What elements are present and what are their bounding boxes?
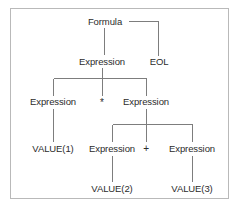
parse-tree-figure: Formula EOL Expression Expression * Expr…: [0, 0, 241, 211]
node-value-1: VALUE(1): [32, 143, 73, 154]
node-expression-add-left: Expression: [89, 143, 135, 154]
node-value-2: VALUE(2): [91, 183, 132, 194]
node-expression-add-right: Expression: [169, 143, 215, 154]
node-expression-right: Expression: [123, 96, 169, 107]
node-expression-root: Expression: [79, 56, 125, 67]
edge-formula-eol: [129, 22, 159, 56]
node-expression-left: Expression: [30, 96, 76, 107]
node-value-3: VALUE(3): [171, 183, 212, 194]
node-formula: Formula: [88, 16, 122, 27]
node-eol: EOL: [150, 56, 169, 67]
node-operator-multiply: *: [100, 97, 104, 108]
node-operator-plus: +: [143, 143, 149, 154]
